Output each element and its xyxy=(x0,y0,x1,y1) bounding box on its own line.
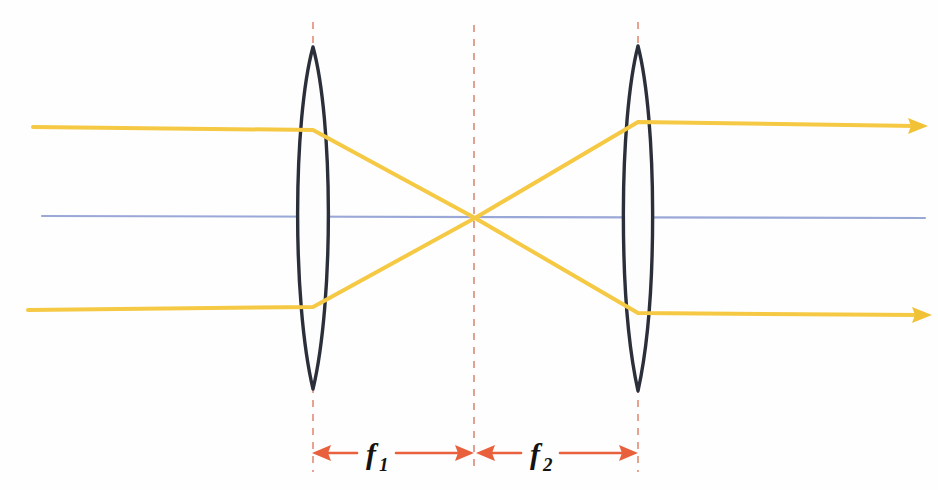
dimension-f2-label-subscript: 2 xyxy=(542,454,553,475)
dimension-f2: f 2 xyxy=(476,437,638,475)
optics-diagram-canvas: f 1 f 2 xyxy=(0,0,938,490)
dimension-f1: f 1 xyxy=(312,437,474,475)
dimension-f2-label: f xyxy=(530,437,543,470)
ray-upper-arrowhead xyxy=(908,118,928,134)
dashed-guide-group xyxy=(313,22,638,472)
lens-2-body xyxy=(623,46,652,391)
optics-ray-diagram: f 1 f 2 xyxy=(0,0,938,490)
optical-axis xyxy=(42,216,925,218)
ray-lower-arrowhead xyxy=(912,307,932,323)
lens-1-body xyxy=(298,47,329,389)
dimension-f1-label-subscript: 1 xyxy=(379,454,389,475)
dimension-f1-label: f xyxy=(366,437,379,470)
